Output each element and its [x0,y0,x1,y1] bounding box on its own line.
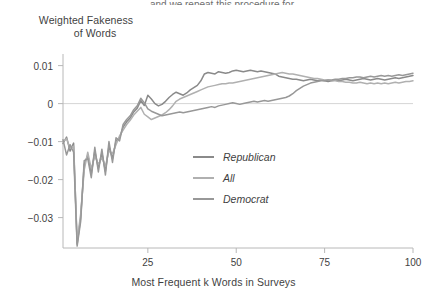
x-axis-tick-label: 25 [142,257,153,268]
y-axis-title-line2: of Words [16,27,156,40]
y-axis-tick-label: −0.02 [5,174,53,185]
y-axis-tick-label: −0.03 [5,212,53,223]
y-axis-title: Weighted Fakeness of Words [16,14,156,40]
x-axis-tick-label: 100 [405,257,422,268]
legend-swatch-line-icon [193,198,214,200]
y-axis-tick-label: 0.01 [5,60,53,71]
y-axis-title-line1: Weighted Fakeness [16,14,156,27]
x-axis-tick-label: 50 [231,257,242,268]
legend-item[interactable]: Republican [193,146,276,167]
legend-swatch-line-icon [193,156,214,158]
y-axis-tick-label: 0 [5,98,53,109]
x-axis-tick-label: 75 [319,257,330,268]
legend-label: Democrat [223,193,269,205]
x-axis-title: Most Frequent k Words in Surveys [0,276,427,288]
figure-container: and we repeat this procedure for Weighte… [0,0,427,302]
legend-item[interactable]: All [193,167,276,188]
legend-swatch-line-icon [193,177,214,179]
cropped-caption-top: and we repeat this procedure for [150,0,427,5]
chart-legend: RepublicanAllDemocrat [193,146,276,209]
y-axis-tick-label: −0.01 [5,136,53,147]
legend-label: All [223,172,235,184]
legend-item[interactable]: Democrat [193,188,276,209]
legend-label: Republican [223,151,276,163]
